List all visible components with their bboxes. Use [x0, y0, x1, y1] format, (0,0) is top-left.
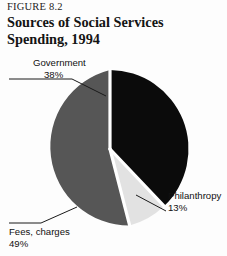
pie-label-government: Government 38% [33, 57, 86, 80]
pie-label-government-percent: 38% [33, 69, 86, 81]
pie-label-government-name: Government [33, 57, 86, 69]
pie-chart-svg [0, 0, 227, 256]
pie-label-philanthropy: Philanthropy 13% [168, 190, 221, 213]
pie-label-fees-percent: 49% [9, 238, 28, 249]
leader-line-fees [9, 207, 77, 223]
pie-label-philanthropy-percent: 13% [168, 202, 187, 213]
pie-chart [0, 0, 227, 256]
figure-panel: FIGURE 8.2 Sources of Social Services Sp… [0, 0, 227, 256]
pie-label-philanthropy-name: Philanthropy [168, 190, 221, 202]
pie-label-fees: Fees, charges 49% [9, 226, 70, 249]
pie-label-fees-name: Fees, charges [9, 226, 70, 238]
